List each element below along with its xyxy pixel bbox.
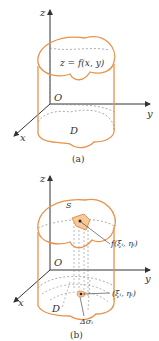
- figure-a: z y x z = f(x, y) O D (a): [0, 0, 159, 170]
- x-axis-label: x: [20, 132, 26, 143]
- y-axis-label: y: [144, 273, 151, 284]
- z-axis-label: z: [39, 7, 46, 18]
- region-label: D: [51, 303, 60, 314]
- z-axis-label: z: [39, 173, 46, 184]
- origin-label: O: [54, 257, 62, 268]
- x-axis-label: x: [18, 297, 24, 308]
- bottom-region-outline: [38, 298, 114, 320]
- surface-label: S: [66, 201, 72, 210]
- point-label: (ξᵢ, ηᵢ): [112, 289, 136, 298]
- point-value-label: f(ξᵢ, ηᵢ): [110, 239, 138, 248]
- region-label: D: [69, 125, 78, 136]
- figure-b: z y x S O D f(ξᵢ, ηᵢ) (ξᵢ, ηᵢ) Δσᵢ (b): [0, 170, 159, 341]
- surface-label: z = f(x, y): [59, 58, 105, 68]
- origin-label: O: [54, 92, 62, 103]
- area-element-label: Δσᵢ: [79, 317, 93, 326]
- caption-b: (b): [70, 330, 83, 340]
- y-axis-label: y: [146, 108, 153, 119]
- caption-a: (a): [72, 154, 84, 164]
